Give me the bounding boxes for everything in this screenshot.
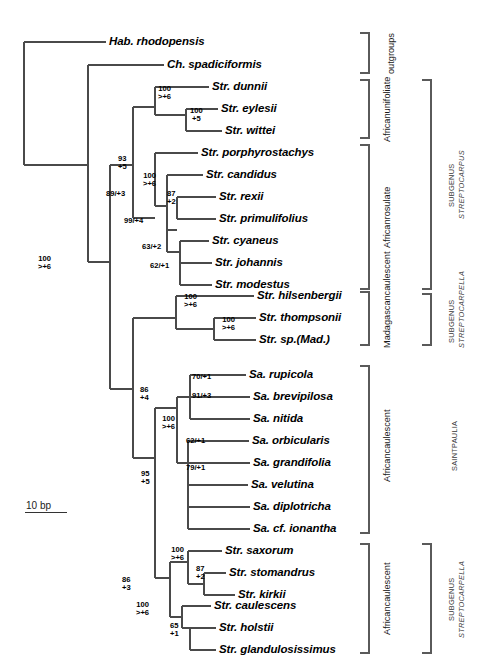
taxon-label-str_saxorum: Str. saxorum bbox=[225, 545, 293, 556]
taxon-label-sa_diplotricha: Sa. diplotricha bbox=[253, 501, 331, 512]
taxon-label-sa_brevipilosa: Sa. brevipilosa bbox=[253, 391, 333, 402]
taxon-label-str_johannis: Str. johannis bbox=[215, 257, 283, 268]
sup-70-1-line1: 70/+1 bbox=[192, 372, 211, 381]
grp-african-caulescent-1: Africancaulescent bbox=[382, 352, 393, 540]
sup-91-3: 91/+3 bbox=[192, 392, 211, 400]
grp-outgroups: outgroups bbox=[386, 26, 397, 82]
scale-bar: 10 bp bbox=[25, 500, 67, 513]
sup-91-3-line1: 91/+3 bbox=[192, 391, 211, 400]
bracket-subgenus-streptocarpella-1 bbox=[422, 294, 431, 345]
sup-node-86-3: 86+3 bbox=[122, 576, 131, 593]
tax-saintpaulia: SAINTPAULIA bbox=[450, 360, 460, 532]
taxon-label-str_rexii: Str. rexii bbox=[219, 191, 263, 202]
tax-subgenus-streptocarpella-2-line2: STREPTOCARPELLA bbox=[457, 542, 467, 656]
grp-outgroups-line1: outgroups bbox=[386, 34, 396, 75]
sup-rosulate-crown: 100>+6 bbox=[143, 172, 156, 189]
sup-63-2-line1: 63/+2 bbox=[142, 242, 161, 251]
bracket-outgroups bbox=[360, 33, 369, 73]
sup-caulescens-crown-line2: >+6 bbox=[136, 609, 149, 617]
grp-african-rosulate-line2: rosulate bbox=[382, 186, 392, 219]
sup-79-1: 79/+1 bbox=[186, 464, 205, 472]
sup-99-4: 99/+4 bbox=[124, 217, 143, 225]
sup-madagascan-crown-line2: >+6 bbox=[184, 301, 197, 309]
grp-african-unifoliate-line2: unifoliate bbox=[382, 77, 392, 114]
sup-62-1b: 62/+1 bbox=[186, 437, 205, 445]
taxon-label-str_candidus: Str. candidus bbox=[206, 169, 277, 180]
taxon-label-str_holstii: Str. holstii bbox=[219, 622, 273, 633]
sup-saintpaulia-crown-line2: >+6 bbox=[162, 423, 175, 431]
sup-saxorum-crown: 100>+6 bbox=[171, 546, 184, 563]
sup-eylesii-wittei: 100+5 bbox=[190, 107, 203, 124]
sup-thompsonii-sp: 100>+6 bbox=[222, 316, 235, 333]
taxon-label-str_wittei: Str. wittei bbox=[225, 125, 275, 136]
sup-65-1: 65+1 bbox=[170, 622, 179, 639]
grp-african-caulescent-2-line1: African bbox=[382, 607, 392, 636]
sup-saxorum-crown-line2: >+6 bbox=[171, 554, 184, 562]
sup-rosulate-crown-line2: >+6 bbox=[143, 180, 156, 188]
grp-madagascan-caulescent-line1: Madagascan bbox=[382, 295, 392, 348]
taxon-label-str_porphyrostachys: Str. porphyrostachys bbox=[201, 147, 314, 158]
tax-subgenus-streptocarpus-line2: STREPTOCARPUS bbox=[457, 78, 467, 292]
sup-62-1: 62/+1 bbox=[150, 262, 169, 270]
bracket-madagascan-caulescent bbox=[360, 292, 369, 345]
tax-subgenus-streptocarpella-line1: SUBGENUS bbox=[447, 299, 456, 342]
grp-african-unifoliate-line1: African bbox=[382, 113, 392, 142]
sup-saintpaulia-crown: 100>+6 bbox=[162, 415, 175, 432]
grp-african-unifoliate: Africanunifoliate bbox=[382, 78, 393, 142]
sup-87-2: 87+2 bbox=[167, 190, 176, 207]
taxon-label-sa_grandifolia: Sa. grandifolia bbox=[253, 457, 331, 468]
bracket-african-caulescent-2 bbox=[360, 544, 369, 653]
bracket-african-caulescent-1 bbox=[360, 366, 369, 533]
sup-62-1b-line1: 62/+1 bbox=[186, 436, 205, 445]
grp-madagascan-caulescent: Madagascancaulescent bbox=[382, 286, 393, 348]
sup-unifoliate-crown: 100>+6 bbox=[158, 85, 171, 102]
sup-62-1-line1: 62/+1 bbox=[150, 261, 169, 270]
sup-caulescens-crown: 100>+6 bbox=[136, 601, 149, 618]
taxon-label-ch_spadiciformis: Ch. spadiciformis bbox=[167, 59, 262, 70]
sup-node-95-5: 95+5 bbox=[141, 470, 150, 487]
taxon-label-sa_nitida: Sa. nitida bbox=[253, 413, 303, 424]
sup-madagascan-crown: 100>+6 bbox=[184, 293, 197, 310]
grp-african-caulescent-2-line2: caulescent bbox=[382, 563, 392, 607]
grp-madagascan-caulescent-line2: caulescent bbox=[382, 251, 392, 295]
grp-african-rosulate-line1: African bbox=[382, 219, 392, 248]
tax-subgenus-streptocarpella: SUBGENUSSTREPTOCARPELLA bbox=[447, 294, 466, 348]
sup-87-2b-line2: +2 bbox=[196, 573, 205, 581]
taxon-label-sa_cf_ionantha: Sa. cf. ionantha bbox=[253, 523, 336, 534]
scale-bar-line bbox=[25, 512, 67, 513]
sup-63-2: 63/+2 bbox=[142, 243, 161, 251]
sup-87-2-line2: +2 bbox=[167, 198, 176, 206]
taxon-label-sa_velutina: Sa. velutina bbox=[251, 479, 314, 490]
sup-streptocarpus-root-line2: >+6 bbox=[38, 263, 51, 271]
sup-65-1-line2: +1 bbox=[170, 630, 179, 638]
bracket-african-unifoliate bbox=[360, 80, 369, 138]
taxon-label-str_dunnii: Str. dunnii bbox=[212, 81, 267, 92]
grp-african-caulescent-1-line1: African bbox=[382, 454, 392, 483]
tax-subgenus-streptocarpella-2: SUBGENUSSTREPTOCARPELLA bbox=[447, 542, 466, 656]
bracket-subgenus-streptocarpus bbox=[422, 80, 431, 289]
tax-subgenus-streptocarpella-2-line1: SUBGENUS bbox=[447, 577, 456, 620]
tax-subgenus-streptocarpella-line2: STREPTOCARPELLA bbox=[457, 294, 467, 348]
sup-87-2b: 87+2 bbox=[196, 565, 205, 582]
taxon-label-sa_rupicola: Sa. rupicola bbox=[249, 369, 313, 380]
sup-streptocarpus-root: 100>+6 bbox=[38, 255, 51, 272]
phylogenetic-tree-figure: Hab. rhodopensisCh. spadiciformisStr. du… bbox=[0, 0, 482, 656]
taxon-label-str_primulifolius: Str. primulifolius bbox=[219, 213, 308, 224]
taxon-label-str_stomandrus: Str. stomandrus bbox=[229, 567, 315, 578]
scale-bar-label: 10 bp bbox=[25, 500, 67, 511]
sup-79-1-line1: 79/+1 bbox=[186, 463, 205, 472]
bracket-african-rosulate bbox=[360, 145, 369, 289]
sup-unifoliate-crown-line2: >+6 bbox=[158, 93, 171, 101]
taxon-label-str_caulescens: Str. caulescens bbox=[214, 600, 296, 611]
sup-node-93-line2: +5 bbox=[118, 163, 127, 171]
group-brackets bbox=[0, 0, 482, 656]
sup-eylesii-wittei-line2: +5 bbox=[190, 115, 203, 123]
tax-subgenus-streptocarpus-line1: SUBGENUS bbox=[447, 163, 456, 206]
grp-african-caulescent-2: Africancaulescent bbox=[382, 542, 393, 656]
taxon-label-hab_rhodopensis: Hab. rhodopensis bbox=[109, 36, 205, 47]
taxon-label-str_eylesii: Str. eylesii bbox=[221, 103, 277, 114]
sup-node-86-4: 86+4 bbox=[140, 386, 149, 403]
sup-node-86-4-line2: +4 bbox=[140, 394, 149, 402]
bracket-subgenus-streptocarpella-2 bbox=[422, 544, 431, 653]
tax-subgenus-streptocarpus: SUBGENUSSTREPTOCARPUS bbox=[447, 78, 466, 292]
